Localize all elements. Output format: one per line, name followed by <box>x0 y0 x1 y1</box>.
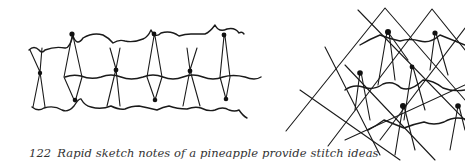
caption-text: Rapid sketch notes of a pineapple provid… <box>57 146 378 160</box>
figure-illustration <box>0 0 465 166</box>
figure-caption: 122Rapid sketch notes of a pineapple pro… <box>29 146 379 160</box>
lattice-knot-dots <box>357 29 461 109</box>
figure-number: 122 <box>29 146 51 160</box>
right-lattice-sketch <box>0 0 465 166</box>
